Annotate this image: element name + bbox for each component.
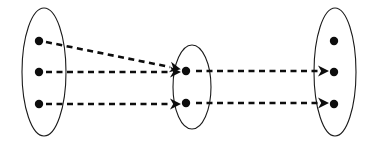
set-mapping-diagram [0,0,371,144]
middle-set-ellipse [173,45,211,129]
left-element-2-dot [35,68,43,76]
arrow-middle2-to-right3 [196,98,329,109]
right-element-1-dot [330,37,338,45]
right-element-2-dot [330,68,338,76]
left-element-1-dot [35,37,43,45]
diagram-canvas [0,0,371,144]
arrow-middle1-to-right2 [196,66,329,77]
middle-element-1-dot [182,67,190,75]
right-element-3-dot [330,100,338,108]
arrow-left3-to-middle2 [46,99,181,110]
left-element-3-dot [35,100,43,108]
middle-element-2-dot [182,99,190,107]
